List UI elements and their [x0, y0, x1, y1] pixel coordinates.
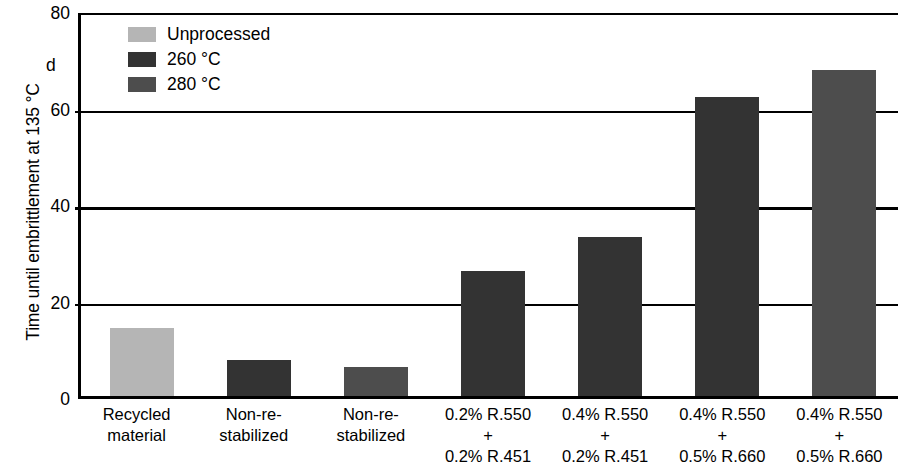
- x-axis-category-label-line: 0.2% R.550: [429, 404, 546, 425]
- x-axis-category-label-line: Non-re-: [195, 404, 312, 425]
- x-axis-category-label-line: 0.2% R.451: [547, 446, 664, 467]
- x-axis-category-label: 0.2% R.550+0.2% R.451: [429, 404, 546, 467]
- bar: [110, 328, 174, 396]
- x-axis-category-label-line: Non-re-: [312, 404, 429, 425]
- y-axis-tick-label: 0: [24, 390, 70, 408]
- legend-color-swatch: [128, 77, 156, 92]
- x-axis-category-label: Non-re-stabilized: [195, 404, 312, 446]
- y-axis-tick-label: 60: [24, 101, 70, 119]
- x-axis-category-label-line: +: [781, 425, 898, 446]
- legend-label: 280 °C: [167, 75, 221, 94]
- legend-color-swatch: [128, 52, 156, 67]
- bar: [695, 97, 759, 396]
- legend-item: Unprocessed: [128, 22, 270, 47]
- x-axis-category-label: Non-re-stabilized: [312, 404, 429, 446]
- legend: Unprocessed260 °C280 °C: [128, 22, 270, 97]
- x-axis-category-label-line: stabilized: [312, 425, 429, 446]
- legend-color-swatch: [128, 27, 156, 42]
- x-axis-category-label-line: +: [429, 425, 546, 446]
- x-axis-category-label: Recycledmaterial: [78, 404, 195, 446]
- x-axis-category-label-line: material: [78, 425, 195, 446]
- bar: [578, 237, 642, 396]
- y-axis-tick-label: 80: [24, 4, 70, 22]
- y-axis-tick-label: 40: [24, 197, 70, 215]
- x-axis-category-label-line: 0.2% R.451: [429, 446, 546, 467]
- y-axis-tick-labels: 806040200: [18, 0, 70, 410]
- x-axis-category-label-line: Recycled: [78, 404, 195, 425]
- x-axis-category-label: 0.4% R.550+0.5% R.660: [664, 404, 781, 467]
- x-axis-category-label-line: 0.4% R.550: [781, 404, 898, 425]
- legend-label: Unprocessed: [167, 25, 270, 44]
- x-axis-category-label-line: stabilized: [195, 425, 312, 446]
- bar: [344, 367, 408, 396]
- x-axis-category-label-line: 0.5% R.660: [664, 446, 781, 467]
- y-axis-tick-label: 20: [24, 294, 70, 312]
- legend-label: 260 °C: [167, 50, 221, 69]
- x-axis-category-label: 0.4% R.550+0.2% R.451: [547, 404, 664, 467]
- bar: [461, 271, 525, 396]
- x-axis-category-label-line: +: [664, 425, 781, 446]
- bar: [227, 360, 291, 396]
- x-axis-category-label-line: 0.5% R.660: [781, 446, 898, 467]
- x-axis-category-label-line: +: [547, 425, 664, 446]
- bar-chart-figure: Time until embrittlement at 135 °C d 806…: [0, 0, 898, 472]
- legend-item: 280 °C: [128, 72, 270, 97]
- legend-item: 260 °C: [128, 47, 270, 72]
- bar: [812, 70, 876, 396]
- x-axis-category-labels: RecycledmaterialNon-re-stabilizedNon-re-…: [78, 404, 898, 472]
- x-axis-category-label: 0.4% R.550+0.5% R.660: [781, 404, 898, 467]
- x-axis-category-label-line: 0.4% R.550: [664, 404, 781, 425]
- x-axis-category-label-line: 0.4% R.550: [547, 404, 664, 425]
